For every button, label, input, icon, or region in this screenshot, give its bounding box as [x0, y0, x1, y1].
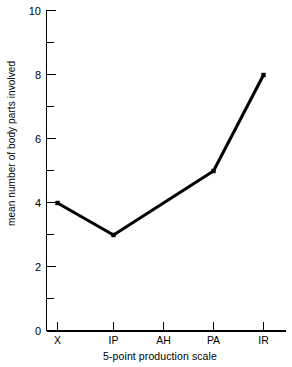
- data-point-ip: [111, 233, 115, 237]
- y-tick-label-8: 8: [35, 69, 41, 81]
- x-tick-label-x: X: [54, 334, 61, 346]
- y-tick-label-10: 10: [29, 5, 41, 17]
- x-tick-label-pa: PA: [207, 334, 220, 346]
- chart-background: [0, 0, 292, 367]
- y-tick-label-2: 2: [35, 261, 41, 273]
- y-tick-label-4: 4: [35, 197, 41, 209]
- y-tick-label-6: 6: [35, 133, 41, 145]
- chart-figure: 10 8 6 4 2 0 X IP AH PA IR mean number o…: [0, 0, 292, 367]
- y-axis-title: mean number of body parts involved: [6, 61, 17, 226]
- data-point-x: [55, 201, 59, 205]
- x-tick-label-ah: AH: [156, 334, 171, 346]
- line-chart: 10 8 6 4 2 0 X IP AH PA IR mean number o…: [0, 0, 292, 367]
- x-tick-label-ip: IP: [109, 334, 119, 346]
- data-point-ir: [261, 73, 265, 77]
- x-tick-label-ir: IR: [258, 334, 269, 346]
- data-point-pa: [211, 169, 215, 173]
- x-axis-title: 5-point production scale: [103, 350, 217, 362]
- y-tick-label-0: 0: [35, 325, 41, 337]
